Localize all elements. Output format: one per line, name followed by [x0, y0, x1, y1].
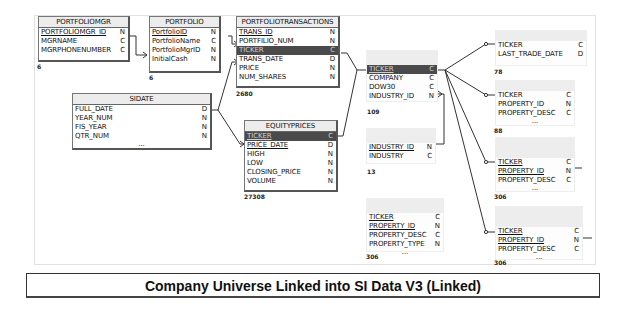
- field-row[interactable]: INDUSTRY_IDN: [367, 92, 437, 101]
- field-row[interactable]: FIS_YEARN: [73, 123, 210, 132]
- table-portfoliomgr[interactable]: PORTFOLIOMGR PORTFOLIOMGR_IDN MGRNAMEC M…: [38, 16, 130, 62]
- field-row[interactable]: PROPERTY_DESCC: [367, 231, 443, 240]
- field-row[interactable]: CLOSING_PRICEN: [245, 168, 336, 177]
- table-title-faded: [496, 81, 574, 91]
- field-row[interactable]: TRANS_DATED: [237, 55, 338, 64]
- table-title-faded: [496, 207, 582, 227]
- field-row[interactable]: TICKERC: [367, 213, 443, 222]
- table-title-faded: [496, 31, 586, 41]
- table-linked-trade-date[interactable]: TICKERC LAST_TRADE_DATED: [495, 30, 587, 66]
- table-title: PORTFOLIOMGR: [39, 17, 128, 28]
- row-count: 27308: [244, 193, 265, 200]
- field-row[interactable]: PROPERTY_IDN: [496, 100, 574, 109]
- field-row[interactable]: PROPERTY_IDN: [496, 236, 582, 245]
- table-title-faded: [367, 129, 435, 143]
- table-linked-property-a[interactable]: TICKERC PROPERTY_IDN PROPERTY_DESCC ...: [495, 80, 575, 126]
- table-title-faded: [367, 199, 443, 213]
- table-title: PORTFOLIOTRANSACTIONS: [237, 17, 338, 28]
- field-row[interactable]: LOWN: [245, 159, 336, 168]
- field-row[interactable]: TICKERC: [496, 227, 582, 236]
- field-row[interactable]: MGRPHONENUMBERC: [39, 46, 128, 55]
- diagram-caption: Company Universe Linked into SI Data V3 …: [26, 273, 600, 298]
- table-title: PORTFOLIO: [150, 17, 219, 28]
- table-portfolio[interactable]: PORTFOLIO PortfolioIDN PortfolioNameC Po…: [149, 16, 221, 73]
- field-row[interactable]: VOLUMEN: [245, 177, 336, 186]
- table-portfoliotransactions[interactable]: PORTFOLIOTRANSACTIONS TRANS_IDN PORTFILI…: [236, 16, 340, 88]
- row-count: 306: [494, 259, 507, 266]
- row-count: 88: [494, 127, 502, 134]
- table-sidate[interactable]: SIDATE FULL_DATED YEAR_NUMN FIS_YEARN QT…: [72, 93, 212, 150]
- field-row[interactable]: INDUSTRYC: [367, 152, 435, 161]
- field-row[interactable]: PORTFOLIOMGR_IDN: [39, 28, 128, 37]
- field-row[interactable]: InitialCashN: [150, 55, 219, 64]
- field-row[interactable]: TICKERC: [496, 91, 574, 100]
- field-row[interactable]: PROPERTY_IDN: [496, 167, 574, 176]
- field-row-selected[interactable]: TICKERC: [237, 46, 338, 55]
- field-row[interactable]: YEAR_NUMN: [73, 114, 210, 123]
- table-equityprices[interactable]: EQUITYPRICES TICKERC PRICE_DATED HIGHN L…: [244, 120, 338, 192]
- table-industry[interactable]: INDUSTRY_IDN INDUSTRYC: [366, 128, 436, 164]
- more-fields-ellipsis: ...: [496, 254, 582, 262]
- field-row[interactable]: NUM_SHARESN: [237, 73, 338, 82]
- field-row[interactable]: TICKERC: [496, 158, 574, 167]
- row-count: 6: [37, 63, 41, 70]
- field-row[interactable]: PortfolioIDN: [150, 28, 219, 37]
- table-company-property[interactable]: TICKERC PROPERTY_IDN PROPERTY_DESCC PROP…: [366, 198, 444, 252]
- field-row[interactable]: INDUSTRY_IDN: [367, 143, 435, 152]
- table-title: EQUITYPRICES: [245, 121, 336, 132]
- table-linked-property-b[interactable]: TICKERC PROPERTY_IDN PROPERTY_DESCC ...: [495, 137, 575, 192]
- field-row[interactable]: PortfolioNameC: [150, 37, 219, 46]
- table-title-faded: [367, 51, 437, 65]
- row-count: 306: [494, 193, 507, 200]
- field-row[interactable]: HIGHN: [245, 150, 336, 159]
- field-row[interactable]: DOW30C: [367, 83, 437, 92]
- field-row-selected[interactable]: TICKERC: [367, 65, 437, 74]
- field-row[interactable]: PRICEN: [237, 64, 338, 73]
- field-row[interactable]: PROPERTY_IDN: [367, 222, 443, 231]
- field-row[interactable]: FULL_DATED: [73, 105, 210, 114]
- field-row-selected[interactable]: TICKERC: [245, 132, 336, 141]
- table-title-faded: [496, 138, 574, 158]
- more-fields-ellipsis: ...: [73, 141, 210, 149]
- field-row[interactable]: PortfolioMgrIDN: [150, 46, 219, 55]
- field-row[interactable]: LAST_TRADE_DATED: [496, 50, 586, 59]
- field-row[interactable]: COMPANYC: [367, 74, 437, 83]
- row-count: 78: [494, 68, 502, 75]
- row-count: 306: [366, 253, 379, 260]
- row-count: 6: [149, 74, 153, 81]
- more-fields-ellipsis: ...: [496, 185, 574, 193]
- field-row[interactable]: PORTFILIO_NUMN: [237, 37, 338, 46]
- row-count: 109: [367, 108, 380, 115]
- field-row[interactable]: MGRNAMEC: [39, 37, 128, 46]
- row-count: 13: [367, 168, 375, 175]
- row-count: 2680: [236, 90, 253, 97]
- table-company[interactable]: TICKERC COMPANYC DOW30C INDUSTRY_IDN: [366, 50, 438, 102]
- table-linked-property-c[interactable]: TICKERC PROPERTY_IDN PROPERTY_DESCC ...: [495, 206, 583, 260]
- field-row[interactable]: TRANS_IDN: [237, 28, 338, 37]
- table-title: SIDATE: [73, 94, 210, 105]
- field-row[interactable]: PRICE_DATED: [245, 141, 336, 150]
- more-fields-ellipsis: ...: [496, 118, 574, 126]
- field-row[interactable]: TICKERC: [496, 41, 586, 50]
